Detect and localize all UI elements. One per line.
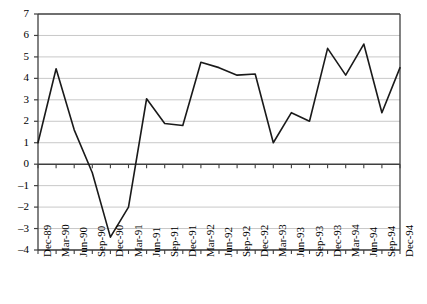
y-tick-label: –2 xyxy=(0,201,29,212)
x-tick-label: Mar-92 xyxy=(205,224,216,257)
y-tick-label: 5 xyxy=(0,51,29,62)
x-tick-label: Mar-91 xyxy=(133,224,144,257)
y-tick-label: –3 xyxy=(0,223,29,234)
x-tick-label: Jun-90 xyxy=(78,227,89,257)
x-tick-label: Jun-94 xyxy=(368,227,379,257)
x-tick-label: Sep-91 xyxy=(169,226,180,257)
x-tick-label: Dec-89 xyxy=(42,225,53,257)
x-tick-label: Sep-93 xyxy=(314,226,325,257)
x-tick-label: Sep-90 xyxy=(96,226,107,257)
y-tick-label: –1 xyxy=(0,180,29,191)
x-tick-label: Dec-90 xyxy=(114,225,125,257)
y-tick-label: 2 xyxy=(0,115,29,126)
y-tick-label: –4 xyxy=(0,244,29,255)
y-tick-label: 4 xyxy=(0,72,29,83)
x-tick-label: Jun-93 xyxy=(295,227,306,257)
chart-plot-area xyxy=(0,0,427,304)
y-tick-label: 6 xyxy=(0,29,29,40)
x-tick-label: Mar-93 xyxy=(277,224,288,257)
y-tick-label: 3 xyxy=(0,94,29,105)
y-tick-label: 0 xyxy=(0,158,29,169)
x-tick-label: Dec-91 xyxy=(187,225,198,257)
x-tick-label: Sep-94 xyxy=(386,226,397,257)
x-tick-label: Mar-94 xyxy=(350,224,361,257)
x-tick-label: Dec-94 xyxy=(404,225,415,257)
line-chart: 76543210–1–2–3–4 Dec-89Mar-90Jun-90Sep-9… xyxy=(0,0,427,304)
x-tick-label: Dec-92 xyxy=(259,225,270,257)
x-tick-label: Dec-93 xyxy=(332,225,343,257)
x-tick-label: Sep-92 xyxy=(241,226,252,257)
x-tick-label: Jun-91 xyxy=(151,227,162,257)
x-tick-label: Mar-90 xyxy=(60,224,71,257)
data-series-line-0 xyxy=(38,44,400,237)
x-tick-label: Jun-92 xyxy=(223,227,234,257)
y-tick-label: 7 xyxy=(0,8,29,19)
y-tick-label: 1 xyxy=(0,137,29,148)
